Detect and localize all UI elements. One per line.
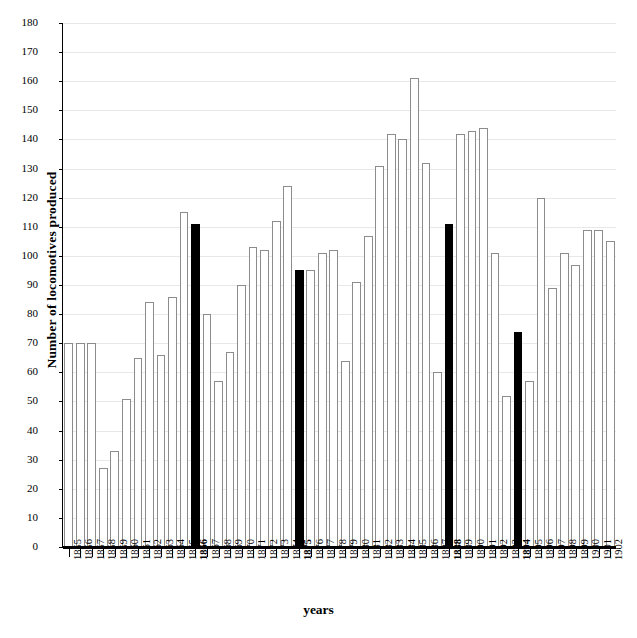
x-axis-tick-label: 1880 [361, 539, 372, 560]
bar [249, 247, 258, 547]
x-axis-tick-mark [172, 549, 173, 557]
x-axis-tick-mark [219, 549, 220, 557]
x-axis-tick-mark [495, 549, 496, 557]
x-axis-tick-mark [530, 549, 531, 557]
x-axis-tick-mark [334, 549, 335, 557]
bar [491, 253, 500, 547]
x-axis-tick-label: 1855 [73, 539, 84, 560]
x-axis-tick-label: 1898 [568, 539, 579, 560]
x-axis-tick-mark [322, 549, 323, 557]
bar [502, 396, 511, 547]
locomotive-production-bar-chart: Number of locomotives produced 010203040… [0, 0, 637, 638]
bar [433, 372, 442, 547]
x-axis-tick-label: 1876 [315, 539, 326, 560]
x-axis-tick-mark [357, 549, 358, 557]
bar [364, 236, 373, 547]
x-axis-tick-mark [276, 549, 277, 557]
bar [537, 198, 546, 547]
x-axis-tick-label: 1887 [441, 539, 452, 560]
bar [398, 139, 407, 547]
x-axis-tick-label: 1889 [464, 539, 475, 560]
bar [237, 285, 246, 547]
bars-layer [63, 23, 616, 547]
x-axis-tick-label: 1866 [199, 539, 210, 560]
x-axis-tick-label: 1879 [349, 539, 360, 560]
x-axis-tick-mark [380, 549, 381, 557]
bar-highlighted [295, 270, 304, 547]
y-axis-tick-label: 30 [0, 454, 38, 465]
bar [76, 343, 85, 547]
x-axis-tick-label: 1896 [545, 539, 556, 560]
y-axis-tick-label: 110 [0, 221, 38, 232]
x-axis-tick-mark [138, 549, 139, 557]
y-axis-tick-label: 160 [0, 75, 38, 86]
y-axis-tick-label: 150 [0, 104, 38, 115]
y-axis-tick-label: 100 [0, 250, 38, 261]
y-axis-tick-label: 120 [0, 192, 38, 203]
x-axis-tick-mark [564, 549, 565, 557]
x-axis-tick-label: 1877 [326, 539, 337, 560]
x-axis-tick-mark [253, 549, 254, 557]
bar [606, 241, 615, 547]
bar [145, 302, 154, 547]
bar [214, 381, 223, 547]
x-axis-tick-label: 1863 [165, 539, 176, 560]
bar [99, 468, 108, 547]
x-axis-tick-mark [472, 549, 473, 557]
x-axis-tick-mark [161, 549, 162, 557]
x-axis-tick-mark [553, 549, 554, 557]
x-axis-tick-mark [541, 549, 542, 557]
y-axis-tick-label: 70 [0, 337, 38, 348]
y-axis-tick-label: 80 [0, 308, 38, 319]
x-axis-tick-mark [599, 549, 600, 557]
x-axis-tick-mark [92, 549, 93, 557]
x-axis-tick-label: 1859 [119, 539, 130, 560]
x-axis-tick-mark [69, 549, 70, 557]
x-axis-tick-label: 1897 [557, 539, 568, 560]
x-axis-tick-mark [299, 549, 300, 557]
x-axis-tick-label: 1902 [614, 539, 625, 560]
bar [260, 250, 269, 547]
bar [571, 265, 580, 547]
x-axis-tick-label: 1871 [257, 539, 268, 560]
x-axis-tick-mark [391, 549, 392, 557]
x-axis-tick-label: 1856 [84, 539, 95, 560]
x-axis-title: years [0, 602, 637, 618]
x-axis-tick-mark [265, 549, 266, 557]
x-axis-tick-mark [576, 549, 577, 557]
x-axis-tick-mark [115, 549, 116, 557]
bar [468, 131, 477, 547]
x-axis-tick-label: 1860 [130, 539, 141, 560]
y-axis-tick-label: 180 [0, 17, 38, 28]
bar [283, 186, 292, 547]
x-axis-tick-label: 1893 [511, 539, 522, 560]
bar [157, 355, 166, 547]
plot-area: 0102030405060708090100110120130140150160… [63, 23, 616, 547]
bar [583, 230, 592, 547]
x-axis-tick-mark [426, 549, 427, 557]
bar [134, 358, 143, 547]
x-axis-tick-label: 1891 [488, 539, 499, 560]
y-axis-title: Number of locomotives produced [44, 140, 60, 400]
bar [410, 78, 419, 547]
x-axis-tick-mark [414, 549, 415, 557]
y-axis-tick-label: 140 [0, 133, 38, 144]
x-axis-tick-label: 1888 [453, 539, 464, 560]
y-axis-tick-label: 60 [0, 366, 38, 377]
x-axis-tick-label: 1901 [603, 539, 614, 560]
bar [64, 343, 73, 547]
x-axis-tick-mark [311, 549, 312, 557]
bar [525, 381, 534, 547]
x-axis-tick-mark [403, 549, 404, 557]
x-axis-tick-label: 1858 [107, 539, 118, 560]
y-axis-tick-label: 0 [0, 541, 38, 552]
x-axis-tick-mark [195, 549, 196, 557]
x-axis-tick-mark [126, 549, 127, 557]
x-axis-tick-label: 1864 [176, 539, 187, 560]
x-axis-tick-mark [449, 549, 450, 557]
x-axis-tick-label: 1861 [142, 539, 153, 560]
y-axis-tick-label: 40 [0, 425, 38, 436]
bar [306, 270, 315, 547]
bar [203, 314, 212, 547]
y-axis-tick-label: 50 [0, 395, 38, 406]
